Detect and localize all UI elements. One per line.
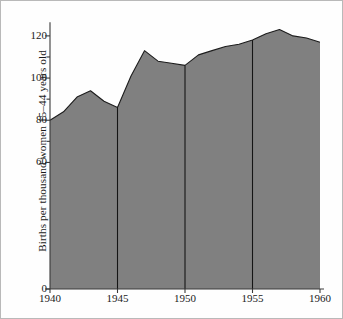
x-tick-label-1955: 1955: [231, 293, 275, 304]
x-tick-label-1940: 1940: [28, 293, 72, 304]
x-tick-label-1945: 1945: [96, 293, 140, 304]
area-chart-svg: [50, 19, 320, 289]
chart-figure: Births per thousand women 15–44 years ol…: [0, 0, 343, 319]
plot-area: [50, 19, 320, 289]
x-tick-label-1960: 1960: [298, 293, 342, 304]
x-tick-label-1950: 1950: [163, 293, 207, 304]
